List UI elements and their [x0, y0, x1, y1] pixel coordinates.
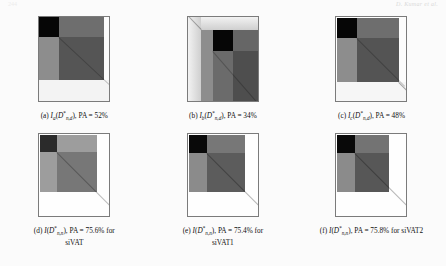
figure-panel-f: (f) I(D*n,n), PA = 75.8% for siVAT2 [297, 133, 446, 247]
caption-metric-name-e: PA [218, 226, 226, 235]
caption-label-f: (f) [320, 226, 327, 235]
caption-suffix-d: siVAT [65, 238, 83, 247]
caption-label-c: (c) [338, 111, 346, 120]
caption-metric-name-d: PA [70, 226, 78, 235]
caption-metric-name-a: PA [79, 111, 87, 120]
caption-arg-sub-e: n,n [205, 230, 211, 236]
caption-label-b: (b) [189, 111, 198, 120]
caption-func-sub-a: a [53, 115, 56, 121]
running-head: D. Kumar et al. [396, 1, 438, 7]
figure-panel-a: (a) Ia(D*n,d), PA = 52% [0, 16, 149, 123]
caption-metric-value-d: 75.6% [86, 226, 105, 235]
caption-arg-sub-a: n,d [66, 115, 72, 121]
caption-func-f: I [329, 226, 331, 235]
caption-func-sub-b: b [202, 115, 205, 121]
figure-row-2: (d) I(D*n,n), PA = 75.6% for siVAT [0, 133, 446, 247]
figure-row-1: (a) Ia(D*n,d), PA = 52% [0, 16, 446, 123]
caption-arg-sub-b: n,d [215, 115, 221, 121]
caption-metric-value-b: 34% [243, 111, 256, 120]
figure-caption-b: (b) Ib(D*n,d), PA = 34% [152, 109, 294, 123]
caption-arg-sub-f: n,n [342, 230, 348, 236]
caption-label-e: (e) [183, 226, 191, 235]
figure-panel-e: (e) I(D*n,n), PA = 75.4% for siVAT1 [149, 133, 298, 247]
vat-matrix-c [335, 16, 407, 102]
vat-matrix-b [187, 16, 259, 102]
figure-caption-a: (a) Ia(D*n,d), PA = 52% [3, 109, 145, 123]
vat-matrix-a [38, 16, 110, 102]
caption-metric-value-f: 75.8% [370, 226, 389, 235]
caption-metric-name-c: PA [376, 111, 384, 120]
page-folio: 244 [8, 1, 17, 7]
vat-matrix-d [38, 133, 110, 217]
vat-matrix-f [335, 133, 407, 217]
figure-caption-d: (d) I(D*n,n), PA = 75.6% for siVAT [3, 224, 145, 247]
figure-panel-b: (b) Ib(D*n,d), PA = 34% [149, 16, 298, 123]
figure-grid: (a) Ia(D*n,d), PA = 52% [0, 16, 446, 248]
caption-func-sub-c: c [350, 115, 352, 121]
caption-suffix-e: siVAT1 [212, 238, 234, 247]
caption-metric-name-b: PA [227, 111, 235, 120]
caption-label-a: (a) [41, 111, 49, 120]
caption-func-d: I [44, 226, 46, 235]
caption-metric-value-c: 48% [392, 111, 405, 120]
figure-caption-f: (f) I(D*n,n), PA = 75.8% for siVAT2 [300, 224, 442, 238]
caption-metric-name-f: PA [354, 226, 362, 235]
figure-page: 244 D. Kumar et al. (a) Ia(D*n,d), [0, 0, 446, 266]
caption-metric-value-e: 75.4% [234, 226, 253, 235]
figure-caption-c: (c) Ic(D*n,d), PA = 48% [300, 109, 442, 123]
vat-matrix-e [187, 133, 259, 217]
caption-suffix-f: siVAT2 [401, 226, 423, 235]
caption-label-d: (d) [34, 226, 43, 235]
caption-metric-value-a: 52% [95, 111, 108, 120]
caption-func-e: I [193, 226, 195, 235]
figure-panel-c: (c) Ic(D*n,d), PA = 48% [297, 16, 446, 123]
figure-panel-d: (d) I(D*n,n), PA = 75.6% for siVAT [0, 133, 149, 247]
caption-arg-sub-c: n,d [363, 115, 369, 121]
caption-arg-sub-d: n,n [57, 230, 63, 236]
figure-caption-e: (e) I(D*n,n), PA = 75.4% for siVAT1 [152, 224, 294, 247]
